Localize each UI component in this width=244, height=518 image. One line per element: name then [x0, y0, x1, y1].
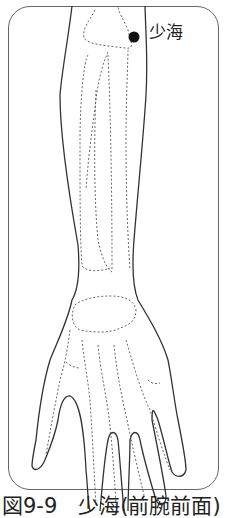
bone-outlines	[46, 6, 170, 505]
acupoint-label: 少海	[149, 24, 183, 41]
figure-caption: 図9-9 少海(前腕前面)	[2, 496, 221, 517]
acupoint-marker	[129, 32, 140, 43]
arm-outline	[32, 6, 186, 511]
